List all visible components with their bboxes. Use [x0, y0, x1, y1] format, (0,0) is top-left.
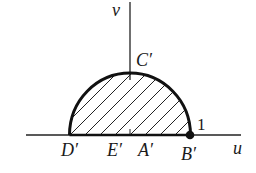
- semicircle-arc: [70, 73, 191, 135]
- hatched-region: [25, 65, 245, 135]
- label-a: A′: [137, 140, 154, 160]
- label-one: 1: [197, 115, 206, 134]
- point-b-dot: [186, 131, 195, 140]
- v-axis-label: v: [112, 0, 120, 20]
- label-e: E′: [106, 140, 123, 160]
- diagram-canvas: v u C′ D′ E′ A′ B′ 1: [0, 0, 256, 173]
- w-plane-diagram: v u C′ D′ E′ A′ B′ 1: [0, 0, 256, 173]
- label-d: D′: [60, 140, 79, 160]
- u-axis-label: u: [233, 138, 242, 158]
- label-c: C′: [136, 50, 153, 70]
- label-b: B′: [181, 144, 197, 164]
